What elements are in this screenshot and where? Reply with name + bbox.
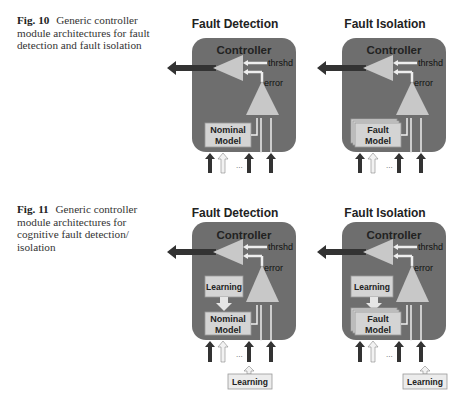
figure-11-caption: Fig. 11 Generic controller module archit… <box>17 203 157 253</box>
controller-architecture: Controller thrshd error Nominal Model ..… <box>160 0 310 190</box>
model-label-line1: Fault <box>367 125 389 135</box>
controller-architecture: Controller thrshd error Fault Model ... <box>310 0 460 190</box>
input-arrow-icon <box>368 341 378 362</box>
controller-label: Controller <box>367 229 422 241</box>
error-label: error <box>264 263 283 273</box>
controller-label: Controller <box>367 44 422 56</box>
model-label-line2: Model <box>215 325 241 335</box>
input-arrow-icon <box>205 153 215 173</box>
error-label: error <box>264 78 283 88</box>
input-arrow-icon <box>416 153 426 173</box>
up-arrow-icon <box>244 366 254 374</box>
input-arrow-icon <box>218 153 228 173</box>
input-arrow-icon <box>244 153 254 173</box>
ellipsis: ... <box>236 161 243 170</box>
controller-label: Controller <box>217 229 272 241</box>
figure-number: Fig. 10 <box>17 14 49 26</box>
figure-number: Fig. 11 <box>17 203 49 215</box>
error-label: error <box>414 78 433 88</box>
input-arrow-icon <box>244 341 254 362</box>
ellipsis: ... <box>236 350 243 359</box>
threshold-label: thrshd <box>268 58 293 68</box>
input-arrow-icon <box>266 153 276 173</box>
ellipsis: ... <box>386 350 393 359</box>
model-label-line1: Fault <box>367 314 389 324</box>
learning-label: Learning <box>407 377 443 387</box>
input-arrow-icon <box>368 153 378 173</box>
controller-label: Controller <box>217 44 272 56</box>
threshold-label: thrshd <box>418 58 443 68</box>
fault-isolation-diagram: Fault Isolation Controller thrshd error … <box>310 0 460 190</box>
input-arrow-icon <box>205 341 215 362</box>
model-label-line1: Nominal <box>210 125 246 135</box>
input-arrow-icon <box>218 341 228 362</box>
learning-label: Learning <box>354 282 390 292</box>
input-arrow-icon <box>394 153 404 173</box>
figure-10-caption: Fig. 10 Generic controller module archit… <box>17 14 157 52</box>
model-label-line2: Model <box>365 136 391 146</box>
error-label: error <box>414 263 433 273</box>
cognitive-fault-detection-diagram: Fault Detection Controller thrshd error … <box>160 200 310 401</box>
learning-label: Learning <box>206 282 242 292</box>
controller-architecture: Controller thrshd error Learning Nominal… <box>160 200 310 401</box>
controller-architecture: Controller thrshd error Learning Fault M… <box>310 200 460 401</box>
input-arrow-icon <box>355 153 365 173</box>
model-label-line2: Model <box>365 325 391 335</box>
input-arrow-icon <box>266 341 276 362</box>
cognitive-fault-isolation-diagram: Fault Isolation Controller thrshd error … <box>310 200 460 401</box>
learning-label: Learning <box>232 377 268 387</box>
threshold-label: thrshd <box>268 242 293 252</box>
model-label-line1: Nominal <box>210 314 246 324</box>
threshold-label: thrshd <box>418 242 443 252</box>
up-arrow-icon <box>420 366 430 374</box>
input-arrow-icon <box>355 341 365 362</box>
input-arrow-icon <box>416 341 426 362</box>
ellipsis: ... <box>386 161 393 170</box>
input-arrow-icon <box>394 341 404 362</box>
model-label-line2: Model <box>215 136 241 146</box>
fault-detection-diagram: Fault Detection Controller thrshd error … <box>160 0 310 190</box>
